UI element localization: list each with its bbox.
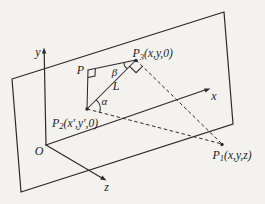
beta-angle-arc	[124, 62, 127, 68]
y-axis-arrow-icon	[42, 48, 46, 54]
diagram-stage: y x z O P L β α P3(x,y,0) P2(x′,y′,0) P1…	[0, 0, 265, 204]
point-p1-label: P1(x,y,z)	[212, 148, 252, 164]
point-dot-p1	[220, 143, 223, 146]
segment-p2-to-p	[87, 70, 88, 109]
right-angle-marker-at-p3	[130, 66, 143, 72]
dashed-p2-to-p1	[87, 109, 222, 144]
y-axis-label: y	[34, 45, 41, 59]
beta-angle-label: β	[111, 66, 118, 78]
p2-coordinates: (x′,y′,0)	[64, 117, 99, 130]
p3-coordinates: (x,y,0)	[144, 47, 173, 60]
alpha-angle-arc	[96, 100, 100, 113]
point-dot-p2	[85, 107, 88, 110]
point-p3-label: P3(x,y,0)	[132, 46, 173, 62]
point-p2-label: P2(x′,y′,0)	[51, 116, 98, 132]
point-p-label: P	[76, 63, 85, 77]
y-axis-line	[44, 53, 46, 145]
coordinate-geometry-figure: y x z O P L β α P3(x,y,0) P2(x′,y′,0) P1…	[0, 0, 265, 204]
alpha-angle-label: α	[102, 95, 108, 107]
x-axis-arrow-icon	[204, 88, 210, 92]
x-axis-label: x	[210, 89, 217, 103]
z-axis-line	[46, 145, 102, 178]
origin-label: O	[35, 144, 44, 158]
p1-coordinates: (x,y,z)	[224, 149, 252, 162]
z-axis-label: z	[103, 180, 109, 194]
segment-l-label: L	[112, 79, 120, 93]
